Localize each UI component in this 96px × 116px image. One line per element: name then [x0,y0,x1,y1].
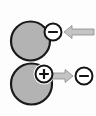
minus-sign-icon [48,31,58,33]
plus-sign-vertical-icon [43,69,45,79]
ejected-minus-charge-badge [76,68,93,85]
electron-ejection-panel [11,64,93,105]
outgoing-electron-arrow [50,70,73,83]
arrow-left-icon [64,26,94,39]
figure-canvas [0,0,96,116]
plus-charge-badge [36,66,53,83]
electron-attachment-panel [11,22,94,61]
arrow-right-icon [50,70,73,83]
charge-transfer-figure [0,0,96,116]
minus-charge-badge [45,24,62,41]
neutral-particle [11,22,50,61]
minus-sign-icon [79,75,89,77]
incoming-electron-arrow [64,26,94,39]
